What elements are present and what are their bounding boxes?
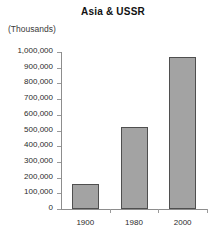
y-axis-tick-mark bbox=[57, 193, 61, 194]
x-axis-line bbox=[61, 209, 208, 210]
y-axis-tick-label: 700,000 bbox=[24, 93, 53, 102]
y-axis-tick-mark bbox=[57, 178, 61, 179]
y-axis-tick-mark bbox=[57, 68, 61, 69]
y-axis-tick-label: 900,000 bbox=[24, 62, 53, 71]
y-axis-tick-label: 100,000 bbox=[24, 187, 53, 196]
y-axis-tick-mark bbox=[57, 162, 61, 163]
x-axis-tick-label: 1900 bbox=[61, 218, 110, 227]
y-axis-tick-mark bbox=[57, 146, 61, 147]
y-axis-tick-label: 800,000 bbox=[24, 77, 53, 86]
bar bbox=[72, 184, 99, 209]
y-axis-tick-label: 600,000 bbox=[24, 109, 53, 118]
y-axis-tick-mark bbox=[57, 209, 61, 210]
x-axis-tick-mark bbox=[207, 209, 208, 213]
bar bbox=[169, 57, 196, 209]
y-axis-tick-label: 300,000 bbox=[24, 156, 53, 165]
bar-chart: Asia & USSR (Thousands) 1,000,000900,000… bbox=[0, 0, 212, 248]
x-axis-tick-label: 1980 bbox=[110, 218, 159, 227]
y-axis-tick-mark bbox=[57, 131, 61, 132]
chart-title: Asia & USSR bbox=[0, 6, 212, 17]
y-axis-tick-mark bbox=[57, 83, 61, 84]
bar bbox=[121, 127, 148, 209]
y-axis-tick-label: 400,000 bbox=[24, 140, 53, 149]
x-axis-tick-mark bbox=[110, 209, 111, 213]
y-axis-tick-label: 500,000 bbox=[24, 125, 53, 134]
y-axis-tick-mark bbox=[57, 115, 61, 116]
y-axis-tick-label: 0 bbox=[49, 203, 53, 212]
y-axis-tick-mark bbox=[57, 99, 61, 100]
y-axis-tick-label: 200,000 bbox=[24, 172, 53, 181]
y-axis-line bbox=[61, 52, 62, 210]
y-axis-unit-label: (Thousands) bbox=[8, 24, 56, 34]
y-axis-tick-label: 1,000,000 bbox=[17, 46, 53, 55]
y-axis-tick-mark bbox=[57, 52, 61, 53]
x-axis-tick-mark bbox=[158, 209, 159, 213]
x-axis-tick-label: 2000 bbox=[158, 218, 207, 227]
